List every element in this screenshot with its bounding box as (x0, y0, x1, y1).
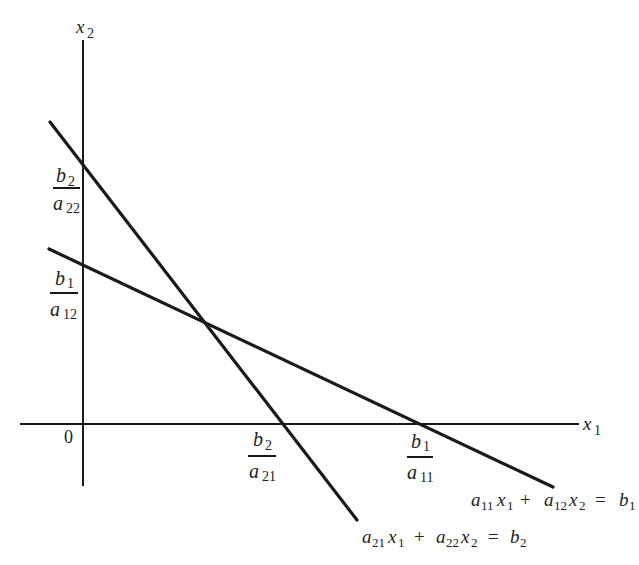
svg-text:1: 1 (398, 535, 405, 550)
x2-axis-label: x 2 (75, 16, 94, 41)
origin-label: 0 (64, 427, 73, 447)
svg-text:2: 2 (579, 498, 586, 513)
svg-text:b: b (56, 164, 66, 186)
svg-text:2: 2 (520, 535, 527, 550)
svg-text:1: 1 (423, 439, 430, 454)
intercept-b2-a22: b 2 a 22 (53, 164, 80, 216)
svg-text:11: 11 (420, 470, 433, 485)
svg-text:22: 22 (66, 201, 80, 216)
diagram-canvas: x 2 x 1 0 b 2 a 22 b 1 a 12 b 2 a 21 b 1… (0, 0, 639, 565)
svg-text:b: b (619, 489, 629, 510)
svg-text:a: a (362, 526, 372, 547)
svg-text:a: a (436, 526, 446, 547)
svg-text:2: 2 (68, 174, 75, 189)
svg-text:a: a (53, 192, 63, 214)
svg-text:x: x (387, 526, 397, 547)
svg-text:1: 1 (507, 498, 514, 513)
svg-text:a: a (407, 461, 417, 483)
svg-text:+: + (414, 526, 425, 547)
svg-text:22: 22 (446, 535, 459, 550)
svg-text:x: x (75, 16, 85, 37)
svg-text:a: a (249, 460, 259, 482)
intercept-b1-a12: b 1 a 12 (50, 267, 78, 322)
x1-axis-label: x 1 (582, 413, 601, 438)
svg-text:12: 12 (63, 307, 77, 322)
svg-text:12: 12 (554, 498, 567, 513)
svg-text:b: b (510, 526, 520, 547)
svg-text:=: = (595, 489, 606, 510)
svg-text:1: 1 (629, 498, 636, 513)
intercept-b1-a11: b 1 a 11 (407, 430, 433, 485)
svg-text:x: x (460, 526, 470, 547)
svg-text:2: 2 (471, 535, 478, 550)
svg-text:1: 1 (67, 276, 74, 291)
svg-text:b: b (253, 428, 263, 450)
svg-text:x: x (582, 413, 592, 434)
svg-text:2: 2 (87, 26, 94, 41)
svg-text:a: a (544, 489, 554, 510)
svg-text:b: b (411, 430, 421, 452)
equation-line-1: a 11 x 1 + a 12 x 2 = b 1 (471, 489, 636, 513)
svg-text:b: b (55, 267, 65, 289)
svg-text:1: 1 (594, 423, 601, 438)
svg-text:11: 11 (481, 498, 494, 513)
intercept-b2-a21: b 2 a 21 (248, 428, 276, 484)
svg-text:=: = (488, 526, 499, 547)
svg-text:x: x (568, 489, 578, 510)
svg-text:a: a (50, 298, 60, 320)
svg-text:21: 21 (262, 469, 276, 484)
svg-text:a: a (471, 489, 481, 510)
equation-line-2: a 21 x 1 + a 22 x 2 = b 2 (362, 526, 527, 550)
line-1 (49, 249, 553, 487)
svg-text:2: 2 (265, 438, 272, 453)
svg-text:+: + (520, 489, 531, 510)
svg-text:21: 21 (372, 535, 385, 550)
svg-text:x: x (496, 489, 506, 510)
